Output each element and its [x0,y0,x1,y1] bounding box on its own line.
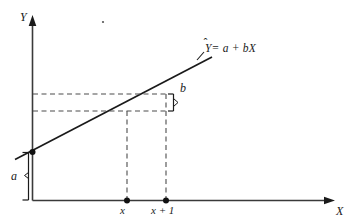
point-x-axis-tick-x-plus-1 [163,198,169,204]
axis-label-x: X [336,205,343,217]
figure-canvas [0,0,351,223]
arrow-right-icon [324,197,335,205]
regression-line-figure: Y X a b x x + 1 Ŷ= a + bX [0,0,351,223]
arrow-up-icon [29,15,37,26]
slope-brace [168,94,178,111]
axis-label-y: Y [20,11,27,23]
vertical-axis [29,15,37,201]
speck-artifact [102,21,104,23]
x-tick-label-second: x + 1 [151,205,174,216]
brace-right-icon [174,99,179,107]
equation-remainder: = a + bX [212,42,256,54]
equation-leader-line [197,52,204,60]
intercept-brace [23,153,29,201]
horizontal-axis [33,197,336,205]
point-y-intercept [30,149,36,155]
intercept-label-a: a [11,170,17,182]
point-x-axis-tick-x [124,198,130,204]
line-equation-label: Ŷ= a + bX [205,43,256,55]
x-tick-label-first: x [120,205,125,216]
y-hat-symbol: Ŷ [205,43,212,55]
regression-line [15,57,212,160]
slope-label-b: b [180,82,186,94]
